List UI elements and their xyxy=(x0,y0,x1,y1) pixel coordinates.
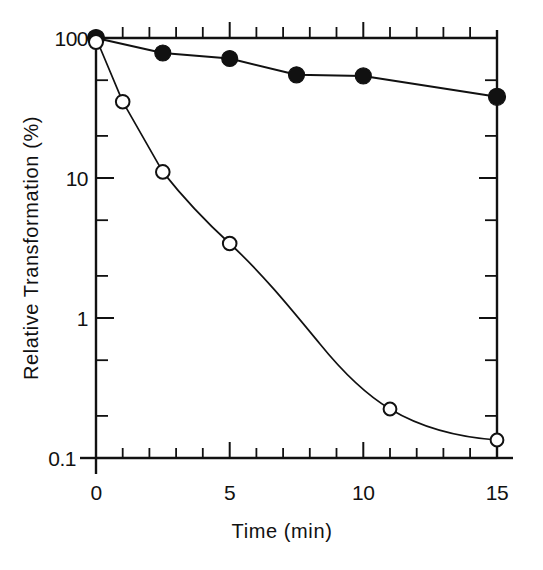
data-point xyxy=(223,237,237,251)
y-tick-label-100: 100 xyxy=(54,27,88,50)
data-point xyxy=(384,403,397,416)
series-line-open xyxy=(96,38,497,440)
data-points-open xyxy=(89,35,503,446)
x-tick-label-5: 5 xyxy=(224,481,235,504)
x-axis-ticks-bottom xyxy=(96,442,497,458)
y-axis-ticks-left xyxy=(96,38,114,458)
x-axis-title: Time (min) xyxy=(232,520,333,542)
y-tick-label-0.1: 0.1 xyxy=(48,447,76,470)
chart-figure: 100 10 1 0.1 0 5 10 15 Time (min) Relati… xyxy=(0,0,543,570)
data-point xyxy=(491,434,504,447)
axis-spines xyxy=(80,30,513,474)
y-tick-label-10: 10 xyxy=(66,167,88,190)
data-point xyxy=(222,51,238,67)
x-tick-label-0: 0 xyxy=(90,481,101,504)
log-decay-plot: 100 10 1 0.1 0 5 10 15 Time (min) Relati… xyxy=(0,0,543,570)
data-point xyxy=(355,68,371,84)
y-axis-ticks-right xyxy=(479,80,497,416)
data-point xyxy=(289,67,305,83)
x-axis-ticks-top xyxy=(123,22,470,38)
x-tick-label-10: 10 xyxy=(352,481,374,504)
data-point xyxy=(116,95,130,109)
y-axis-title: Relative Transformation (%) xyxy=(20,116,42,380)
data-point xyxy=(489,88,506,105)
data-points-filled xyxy=(88,30,506,106)
y-tick-label-1: 1 xyxy=(77,307,88,330)
data-point xyxy=(156,165,170,179)
data-point xyxy=(155,45,171,61)
x-tick-label-15: 15 xyxy=(486,481,508,504)
data-point xyxy=(89,35,103,49)
